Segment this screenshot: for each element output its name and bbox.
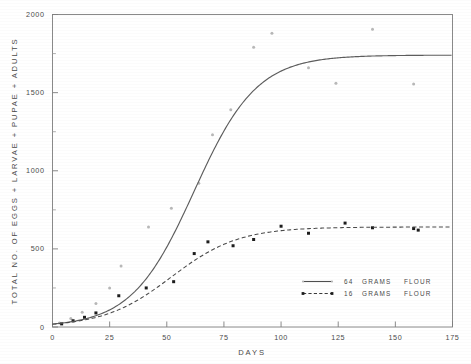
data-point-64-grams <box>147 226 150 229</box>
x-axis-tick-label: 125 <box>331 333 345 342</box>
data-point-16-grams <box>172 280 175 283</box>
data-point-64-grams <box>120 265 123 268</box>
legend-label-16-medium: FLOUR <box>404 290 432 297</box>
series-16-grams-points <box>60 222 420 326</box>
y-axis-tick-label: 2000 <box>26 10 44 19</box>
series-64-grams-curve <box>53 55 452 324</box>
legend-swatch-16-endcap-right <box>331 292 334 295</box>
plot-frame <box>53 15 453 328</box>
data-point-16-grams <box>252 238 255 241</box>
data-point-64-grams <box>334 82 337 85</box>
legend-swatch-64-endcap-left <box>302 280 304 282</box>
y-axis-tick-label: 0 <box>40 323 45 332</box>
data-point-64-grams <box>170 207 173 210</box>
x-axis-tick-group: 0255075100125150175 <box>50 322 459 342</box>
data-point-64-grams <box>81 311 84 314</box>
data-point-64-grams <box>229 108 232 111</box>
y-axis-tick-group: 0500100015002000 <box>26 10 58 332</box>
data-point-64-grams <box>371 28 374 31</box>
data-point-64-grams <box>307 66 310 69</box>
x-axis-tick-label: 0 <box>50 333 55 342</box>
legend-swatch-16-endcap-left <box>302 292 305 295</box>
data-point-64-grams <box>252 46 255 49</box>
x-axis-tick-label: 150 <box>388 333 402 342</box>
y-axis-tick-label: 1500 <box>26 88 44 97</box>
x-axis-tick-label: 50 <box>162 333 171 342</box>
data-point-16-grams <box>417 229 420 232</box>
y-axis-tick-label: 500 <box>31 244 45 253</box>
data-point-16-grams <box>344 222 347 225</box>
legend-label-16-unit: GRAMS <box>362 290 391 297</box>
population-growth-chart: 0500100015002000 0255075100125150175 DAY… <box>0 0 471 364</box>
data-point-16-grams <box>280 225 283 228</box>
x-axis-tick-label: 75 <box>219 333 228 342</box>
data-point-64-grams <box>108 286 111 289</box>
data-point-64-grams <box>270 32 273 35</box>
y-axis-title: TOTAL NO. OF EGGS + LARVAE + PUPAE + ADU… <box>10 38 19 305</box>
x-axis-tick-label: 175 <box>446 333 460 342</box>
legend-swatch-64-endcap-right <box>331 280 333 282</box>
data-point-16-grams <box>94 311 97 314</box>
data-point-64-grams <box>94 302 97 305</box>
data-point-16-grams <box>145 286 148 289</box>
data-point-16-grams <box>117 294 120 297</box>
series-16-grams-curve <box>53 227 452 324</box>
figure-panel: 0500100015002000 0255075100125150175 DAY… <box>0 0 471 364</box>
data-point-64-grams <box>211 133 214 136</box>
legend-label-64-value: 64 <box>344 278 354 285</box>
x-axis-tick-label: 100 <box>274 333 288 342</box>
data-point-16-grams <box>206 240 209 243</box>
chart-legend: 64 GRAMS FLOUR 16 GRAMS FLOUR <box>302 278 432 297</box>
data-point-64-grams <box>412 83 415 86</box>
x-axis-title: DAYS <box>238 348 266 357</box>
legend-label-64-unit: GRAMS <box>362 278 391 285</box>
x-axis-tick-label: 25 <box>105 333 114 342</box>
data-point-16-grams <box>232 244 235 247</box>
legend-label-64-medium: FLOUR <box>404 278 432 285</box>
data-point-16-grams <box>193 252 196 255</box>
legend-label-16-value: 16 <box>344 290 354 297</box>
y-axis-tick-label: 1000 <box>26 166 44 175</box>
data-point-16-grams <box>307 232 310 235</box>
